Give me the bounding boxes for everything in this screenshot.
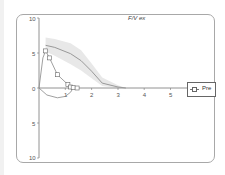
x-tick-3: 3 xyxy=(117,92,121,98)
legend-label-pre: Pre xyxy=(202,85,211,91)
y-tick-10: 10 xyxy=(29,16,36,22)
x-tick-5: 5 xyxy=(169,92,173,98)
pre-inspiratory-curve xyxy=(39,88,73,98)
y-tick-neg10: 10 xyxy=(29,155,36,161)
legend: Pre xyxy=(187,82,216,97)
x-tick-4: 4 xyxy=(143,92,147,98)
chart-title: F/V ex xyxy=(128,15,145,21)
y-tick-neg5: 5 xyxy=(32,121,36,127)
x-tick-2: 2 xyxy=(90,92,94,98)
y-tick-0: 0 xyxy=(32,86,36,92)
predicted-range-band xyxy=(46,38,126,88)
legend-square-marker-icon xyxy=(192,87,197,92)
y-tick-5: 5 xyxy=(32,51,36,57)
